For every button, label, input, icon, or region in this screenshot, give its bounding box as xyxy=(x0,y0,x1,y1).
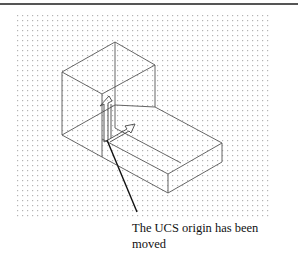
dot-grid xyxy=(17,15,272,220)
caption-line-1: The UCS origin has been xyxy=(132,220,282,236)
caption-line-2: moved xyxy=(132,236,282,252)
annotation-caption: The UCS origin has been moved xyxy=(132,220,282,252)
